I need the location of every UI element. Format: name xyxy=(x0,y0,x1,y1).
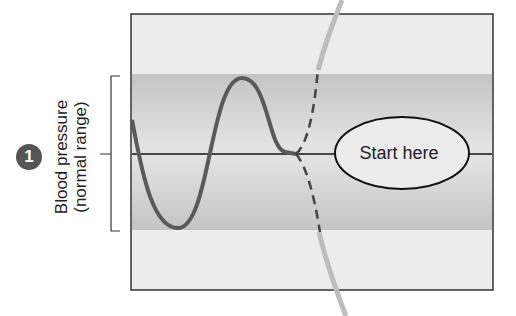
y-axis-label-line2: (normal range) xyxy=(71,100,90,214)
y-axis-label: Blood pressure (normal range) xyxy=(52,100,90,214)
y-axis-label-line1: Blood pressure xyxy=(52,100,71,214)
range-bracket xyxy=(100,76,120,231)
start-here-label: Start here xyxy=(334,143,464,164)
step-number-badge: 1 xyxy=(16,144,42,170)
